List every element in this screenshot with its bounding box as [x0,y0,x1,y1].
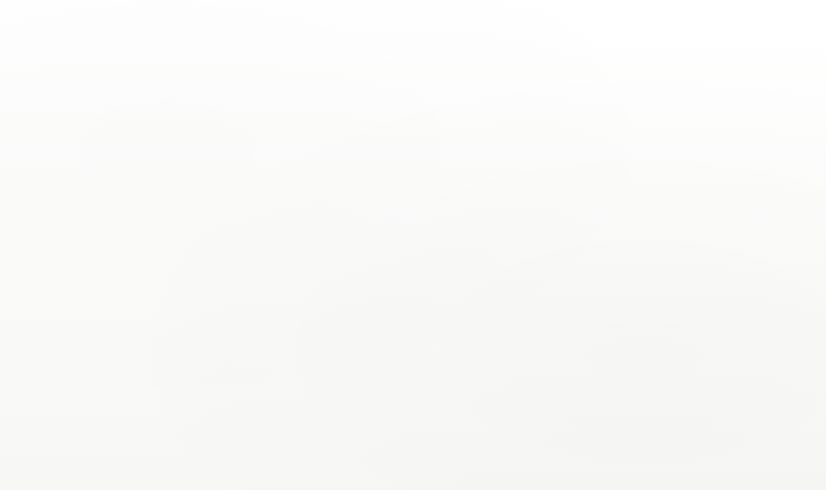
label-z2-sub-b: 2 [721,121,728,136]
label-x1-sub: 1 [19,246,26,261]
label-theta1-b: θ [593,119,603,143]
rotation-theta1-b: θ 1 [537,119,613,146]
label-theta1-sub: 1 [196,141,203,156]
label-d0-sub: 0 [447,352,454,367]
figure-container: z 0 θ 1 z 1 x 1 x 0 x 2 z [0,0,826,490]
panel-tag-b: (b) [550,443,575,467]
label-l1-sub: 1 [225,300,232,315]
label-z2-b: z [708,109,717,131]
label-x1: x [5,234,15,256]
link1-callout-label: Link 1 [172,46,226,70]
label-l1: l [217,288,223,310]
label-x1-sub-b: 1 [439,274,446,289]
label-x0-sub-b: 0 [432,446,439,461]
label-x0: x [12,266,22,288]
label-z0: z [110,106,119,128]
label-x2-sub-b: 2 [796,274,803,289]
label-x2-b: x [783,262,793,284]
diagram-panel-b: z 0 θ 1 z 1 x 1 x 0 z [413,0,826,490]
label-z2-sub: 2 [399,243,406,258]
label-l1-sub-b: 1 [634,290,641,305]
l1-extension-line [270,250,290,330]
link0-callout-leader [190,355,262,384]
label-theta1: θ [183,129,193,153]
label-z2: z [386,231,395,253]
label-z0-b: z [545,68,554,90]
label-z1-b: z [619,191,628,213]
label-z0-sub-b: 0 [559,80,566,95]
panel-tag-a: (a) [138,441,163,465]
callout-link0: Link 0 [190,341,382,393]
label-theta1-sub-b: 1 [606,131,613,146]
diagram-panel-a: z 0 θ 1 z 1 x 1 x 0 x 2 z [0,0,413,490]
label-x0-b: x [418,434,428,456]
label-z1-sub: 1 [223,200,230,215]
label-x2-sub: 2 [313,119,320,134]
frame2-panel-b: z 2 x 2 [708,109,803,289]
l1-extension-line-b [679,252,699,330]
link0-callout-label: Link 0 [292,356,347,380]
label-x0-sub: 0 [26,278,33,293]
label-z0-sub: 0 [124,118,131,133]
label-l1-b: l [626,278,632,300]
label-z1: z [210,189,219,211]
label-x2: x [299,107,309,129]
callout-link1: Link 1 [138,29,262,85]
label-d0: d [427,340,438,362]
label-x1-b: x [425,262,435,284]
label-z1-sub-b: 1 [632,202,639,217]
